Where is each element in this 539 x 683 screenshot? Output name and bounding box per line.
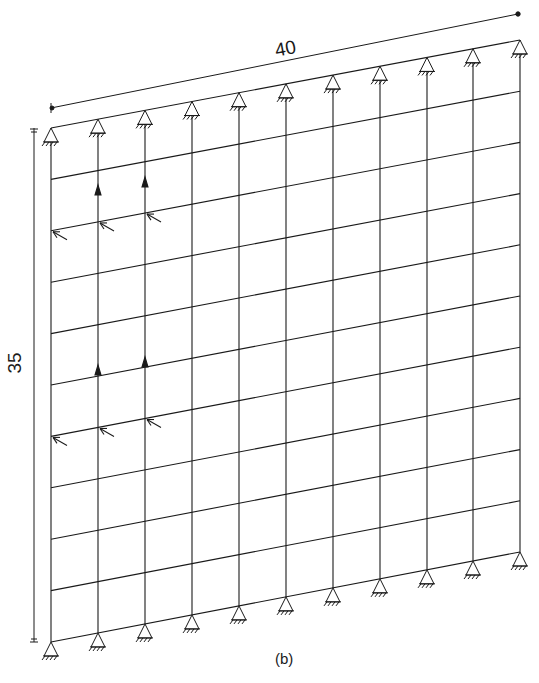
- arrow-diagonal-icon: [53, 232, 67, 240]
- pin-supports: [42, 40, 528, 660]
- pin-support-bottom-icon: [324, 588, 341, 606]
- dimension-height-label: 35: [4, 352, 26, 373]
- arrow-up-icon: [95, 185, 101, 195]
- pin-support-bottom-icon: [371, 579, 388, 597]
- arrow-up-icon: [95, 365, 101, 375]
- dimension-width-label: 40: [273, 36, 298, 62]
- arrow-diagonal-icon: [147, 214, 161, 222]
- figure-caption: (b): [275, 650, 293, 667]
- pin-support-bottom-icon: [136, 624, 153, 642]
- arrow-up-icon: [142, 177, 148, 187]
- pin-support-bottom-icon: [464, 561, 481, 579]
- structural-grid-diagram: [0, 0, 539, 683]
- pin-support-bottom-icon: [511, 552, 528, 570]
- pin-support-bottom-icon: [418, 570, 435, 588]
- arrow-diagonal-icon: [147, 420, 161, 428]
- arrow-diagonal-icon: [100, 428, 114, 436]
- arrow-up-icon: [142, 357, 148, 367]
- pin-support-bottom-icon: [277, 597, 294, 615]
- pin-support-bottom-icon: [89, 633, 106, 651]
- arrow-diagonal-icon: [53, 437, 67, 445]
- arrow-diagonal-icon: [100, 223, 114, 231]
- pin-support-bottom-icon: [230, 606, 247, 624]
- pin-support-bottom-icon: [42, 642, 59, 660]
- pin-support-bottom-icon: [183, 615, 200, 633]
- dimension-tick-right: [516, 12, 520, 16]
- grid-lines: [51, 40, 520, 642]
